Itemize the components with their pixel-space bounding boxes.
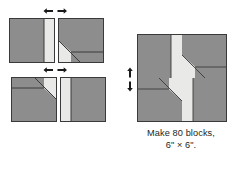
unit-strip-left <box>60 77 106 122</box>
arrow-up-icon <box>126 67 134 78</box>
unit-diagonal-a <box>58 18 104 63</box>
diagram-canvas: Make 80 blocks, 6" × 6". <box>0 0 234 169</box>
quadrant-bottom-left <box>137 78 182 122</box>
assembled-block-shape <box>137 34 227 122</box>
join-vertical-arrows <box>126 66 134 92</box>
join-horizontal-arrows-top <box>43 7 67 15</box>
caption-line-2: 6" × 6". <box>131 140 231 152</box>
arrow-right-icon <box>57 66 68 74</box>
quadrant-bottom-right <box>182 78 227 122</box>
quadrant-top-left <box>137 34 182 78</box>
assembled-block <box>137 34 227 122</box>
arrow-down-icon <box>126 81 134 92</box>
arrow-left-icon <box>43 66 54 74</box>
arrow-right-icon <box>57 7 68 15</box>
caption-line-1: Make 80 blocks, <box>131 128 231 140</box>
caption-block: Make 80 blocks, 6" × 6". <box>131 128 231 151</box>
unit-strip-left-shape <box>60 77 106 122</box>
unit-diagonal-b-shape <box>11 77 57 122</box>
unit-diagonal-a-shape <box>58 18 104 63</box>
arrow-left-icon <box>43 7 54 15</box>
unit-diagonal-b <box>11 77 57 122</box>
quadrant-top-right <box>182 34 227 78</box>
join-horizontal-arrows-bottom <box>43 66 67 74</box>
unit-strip-right-shape <box>9 18 55 63</box>
unit-strip-right <box>9 18 55 63</box>
